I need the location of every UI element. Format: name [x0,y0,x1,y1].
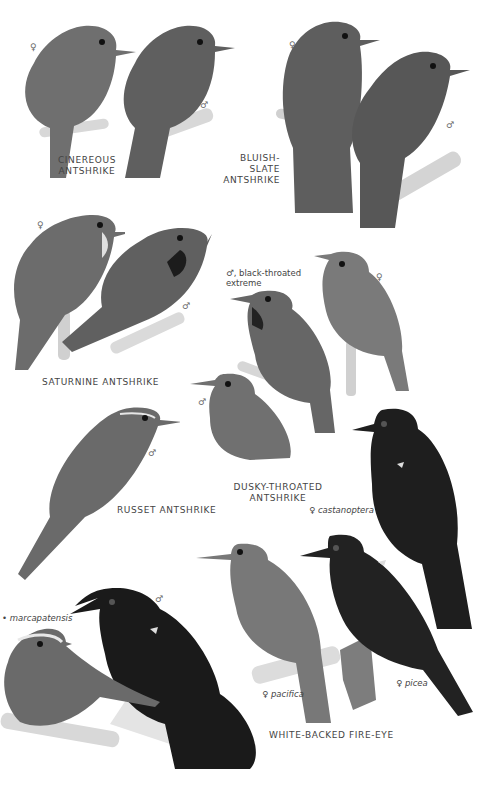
bird-illustration-dusky-throated-male [190,368,300,468]
sex-symbol-russet-male: ♂ [148,448,156,458]
species-name-dusky-throated-antshrike: DUSKY-THROATED ANTSHRIKE [228,482,328,504]
sex-symbol-cinereous-male: ♂ [200,100,208,110]
sex-symbol-dusky-throated-male: ♂ [198,397,206,407]
subspecies-label-pacifica: ♀ pacifica [262,689,304,699]
subspecies-label-picea: ♀ picea [396,678,428,688]
bird-illustration-saturnine-male [62,222,212,362]
field-guide-plate: ♀ ♂ CINEREOUS ANTSHRIKE ♀ ♂ BLUISH-SLATE… [0,0,499,789]
species-name-bluish-slate-antshrike: BLUISH-SLATE ANTSHRIKE [210,153,280,186]
species-name-cinereous-antshrike: CINEREOUS ANTSHRIKE [52,155,122,177]
sex-symbol-fire-eye-male: ♂ [155,594,163,604]
subspecies-label-marcapatensis: • marcapatensis [2,613,72,623]
figure-note-black-throated-extreme: ♂, black-throated extreme [226,268,301,288]
sex-symbol-dusky-throated-female: ♀ [376,272,383,282]
species-name-saturnine-antshrike: SATURNINE ANTSHRIKE [42,377,159,388]
subspecies-label-castanoptera: ♀ castanoptera [309,505,374,515]
bird-illustration-fire-eye-marcapatensis [0,622,170,772]
bird-illustration-russet-male [10,402,180,582]
bird-illustration-dusky-throated-female [314,246,414,396]
sex-symbol-saturnine-male: ♂ [182,301,190,311]
species-name-russet-antshrike: RUSSET ANTSHRIKE [117,505,216,516]
species-name-white-backed-fire-eye: WHITE-BACKED FIRE-EYE [269,730,394,741]
sex-symbol-bluish-slate-male: ♂ [446,120,454,130]
bird-illustration-bluish-slate-male [345,48,470,233]
sex-symbol-bluish-slate-female: ♀ [289,40,296,50]
sex-symbol-cinereous-female: ♀ [30,42,37,52]
sex-symbol-saturnine-female: ♀ [37,220,44,230]
